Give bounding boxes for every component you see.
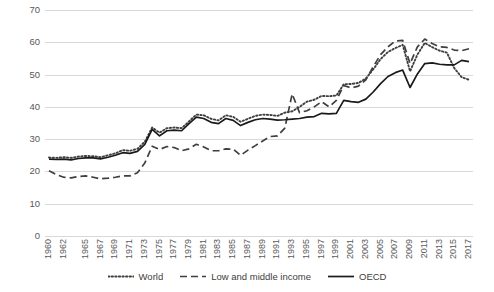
y-axis-tick-0: 0 — [2, 231, 40, 241]
x-axis-tick-1975: 1975 — [155, 239, 164, 259]
chart-legend: WorldLow and middle incomeOECD — [0, 266, 494, 286]
x-axis-tick-1995: 1995 — [302, 239, 311, 259]
x-axis-tick-1991: 1991 — [272, 239, 281, 259]
plot-area — [45, 10, 473, 236]
legend-item-oecd[interactable]: OECD — [328, 271, 386, 282]
x-axis-tick-1979: 1979 — [184, 239, 193, 259]
x-axis-tick-1987: 1987 — [243, 239, 252, 259]
y-axis-tick-50: 50 — [2, 70, 40, 80]
x-axis-tick-1989: 1989 — [258, 239, 267, 259]
y-axis-tick-70: 70 — [2, 5, 40, 15]
x-axis-tick-2007: 2007 — [390, 239, 399, 259]
x-axis-tick-2017: 2017 — [464, 239, 473, 259]
x-axis-tick-1983: 1983 — [213, 239, 222, 259]
x-axis-tick-1999: 1999 — [331, 239, 340, 259]
x-axis-tick-1960: 1960 — [44, 239, 53, 259]
x-axis-tick-1997: 1997 — [317, 239, 326, 259]
series-line-oecd — [49, 60, 469, 159]
x-axis-tick-1981: 1981 — [199, 239, 208, 259]
x-axis-tick-1985: 1985 — [228, 239, 237, 259]
x-axis-tick-2009: 2009 — [405, 239, 414, 259]
x-axis-tick-1977: 1977 — [169, 239, 178, 259]
series-line-world — [49, 43, 469, 158]
x-axis-tick-2005: 2005 — [376, 239, 385, 259]
x-axis-tick-1962: 1962 — [59, 239, 68, 259]
y-axis-tick-60: 60 — [2, 38, 40, 48]
x-axis-tick-2015: 2015 — [449, 239, 458, 259]
series-layer — [45, 10, 473, 236]
legend-swatch-oecd — [328, 272, 354, 281]
x-axis-tick-1967: 1967 — [96, 239, 105, 259]
x-axis-tick-2001: 2001 — [346, 239, 355, 259]
gridline-0 — [45, 236, 473, 237]
legend-swatch-world — [108, 272, 134, 281]
x-axis-tick-1973: 1973 — [140, 239, 149, 259]
y-axis-tick-40: 40 — [2, 102, 40, 112]
legend-swatch-low-and-middle-income — [180, 272, 206, 281]
x-axis-tick-2013: 2013 — [435, 239, 444, 259]
line-chart: 010203040506070 196019621965196719691971… — [0, 0, 494, 292]
x-axis-tick-2003: 2003 — [361, 239, 370, 259]
x-axis-tick-1969: 1969 — [110, 239, 119, 259]
legend-label-world: World — [139, 271, 164, 282]
legend-label-oecd: OECD — [359, 271, 386, 282]
y-axis-tick-30: 30 — [2, 134, 40, 144]
legend-item-world[interactable]: World — [108, 271, 164, 282]
y-axis-tick-20: 20 — [2, 167, 40, 177]
legend-label-low-and-middle-income: Low and middle income — [211, 271, 311, 282]
x-axis-tick-2011: 2011 — [420, 239, 429, 258]
x-axis-tick-1965: 1965 — [81, 239, 90, 259]
y-axis-labels: 010203040506070 — [0, 0, 40, 250]
y-axis-tick-10: 10 — [2, 199, 40, 209]
x-axis-tick-1971: 1971 — [125, 239, 134, 259]
legend-item-low-and-middle-income[interactable]: Low and middle income — [180, 271, 311, 282]
x-axis-tick-1993: 1993 — [287, 239, 296, 259]
